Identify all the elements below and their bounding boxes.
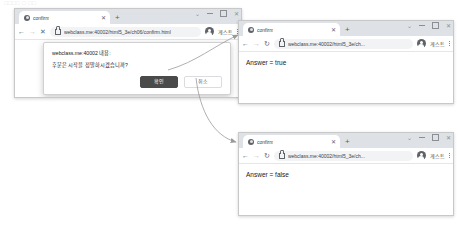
- avatar-icon[interactable]: [205, 27, 214, 36]
- maximize-icon[interactable]: [432, 134, 439, 141]
- tab-strip-true: confirm ✕ + ⌄ ✕: [239, 21, 453, 36]
- tab-confirm-main[interactable]: confirm ✕: [19, 11, 110, 24]
- avatar-icon[interactable]: [417, 151, 426, 160]
- plus-icon[interactable]: +: [115, 14, 120, 22]
- maximize-icon[interactable]: [220, 10, 227, 17]
- confirm-dialog[interactable]: webclass.me:40002 내용: 후문은 시작을 정말하시겠습니까? …: [43, 42, 231, 95]
- dialog-host-line: webclass.me:40002 내용:: [52, 49, 222, 56]
- chevron-down-icon[interactable]: ⌄: [195, 11, 200, 17]
- reload-icon[interactable]: ↻: [264, 152, 270, 159]
- window-controls-true: ⌄ ✕: [407, 22, 451, 29]
- tab-strip-false: confirm ✕ + ⌄ ✕: [239, 133, 453, 148]
- tab-title: confirm: [33, 15, 49, 21]
- profile-label: 게스트: [430, 152, 445, 159]
- tab-title: confirm: [257, 139, 273, 145]
- browser-window-true[interactable]: confirm ✕ + ⌄ ✕ ← → ↻ webclass.me:40002/…: [238, 20, 454, 104]
- plus-icon[interactable]: +: [345, 138, 350, 146]
- plus-icon[interactable]: +: [345, 26, 350, 34]
- window-controls-false: ⌄ ✕: [407, 134, 451, 141]
- window-controls-main: ⌄ ✕: [195, 10, 239, 17]
- close-icon[interactable]: ✕: [446, 23, 451, 29]
- arrow-right-icon[interactable]: →: [253, 40, 260, 47]
- close-icon[interactable]: ✕: [326, 139, 336, 145]
- close-icon[interactable]: ✕: [96, 15, 106, 21]
- toolbar-main: ← → ✕ webclass.me:40002/html5_3e/ch06/co…: [15, 24, 241, 40]
- profile-label: 게스트: [218, 28, 233, 35]
- url-text: webclass.me:40002/html5_3e/ch...: [288, 153, 365, 159]
- lock-icon: [55, 29, 61, 35]
- minimize-icon[interactable]: [419, 137, 425, 138]
- page-body-text: Answer = false: [239, 164, 453, 178]
- url-text: webclass.me:40002/html5_3e/ch06/confirm.…: [64, 29, 171, 35]
- close-icon[interactable]: ✕: [40, 28, 46, 35]
- dialog-buttons: 확인 취소: [52, 76, 222, 88]
- avatar-icon[interactable]: [417, 39, 426, 48]
- globe-icon: [24, 15, 30, 21]
- browser-window-false[interactable]: confirm ✕ + ⌄ ✕ ← → ↻ webclass.me:40002/…: [238, 132, 454, 216]
- kebab-menu-icon[interactable]: [449, 41, 450, 47]
- tab-confirm-true[interactable]: confirm ✕: [243, 23, 340, 36]
- tab-strip-main: confirm ✕ + ⌄ ✕: [15, 9, 241, 24]
- arrow-right-icon[interactable]: →: [253, 152, 260, 159]
- browser-window-main[interactable]: confirm ✕ + ⌄ ✕ ← → ✕ webclass.me:40002/…: [14, 8, 242, 98]
- toolbar-true: ← → ↻ webclass.me:40002/html5_3e/ch... 게…: [239, 36, 453, 52]
- address-bar-false[interactable]: webclass.me:40002/html5_3e/ch...: [274, 151, 413, 161]
- close-icon[interactable]: ✕: [446, 135, 451, 141]
- page-viewport-true: Answer = true: [239, 52, 453, 104]
- url-text: webclass.me:40002/html5_3e/ch...: [288, 41, 365, 47]
- page-viewport-main: webclass.me:40002 내용: 후문은 시작을 정말하시겠습니까? …: [15, 40, 241, 98]
- address-bar-true[interactable]: webclass.me:40002/html5_3e/ch...: [274, 39, 413, 49]
- screenshot-stage: □□□□ □ □□ confirm ✕ + ⌄ ✕ ← → ✕ webclass…: [0, 0, 459, 240]
- ok-button[interactable]: 확인: [140, 76, 178, 88]
- reload-icon[interactable]: ↻: [264, 40, 270, 47]
- toolbar-false: ← → ↻ webclass.me:40002/html5_3e/ch... 게…: [239, 148, 453, 164]
- kebab-menu-icon[interactable]: [449, 153, 450, 159]
- profile-label: 게스트: [430, 40, 445, 47]
- maximize-icon[interactable]: [432, 22, 439, 29]
- cancel-button[interactable]: 취소: [184, 76, 222, 88]
- page-viewport-false: Answer = false: [239, 164, 453, 216]
- minimize-icon[interactable]: [207, 13, 213, 14]
- globe-icon: [248, 139, 254, 145]
- globe-icon: [248, 27, 254, 33]
- lock-icon: [279, 41, 285, 47]
- arrow-left-icon[interactable]: ←: [242, 40, 249, 47]
- close-icon[interactable]: ✕: [326, 27, 336, 33]
- chevron-down-icon[interactable]: ⌄: [407, 23, 412, 29]
- tab-confirm-false[interactable]: confirm ✕: [243, 135, 340, 148]
- top-caption: □□□□ □ □□: [4, 0, 94, 8]
- tab-title: confirm: [257, 27, 273, 33]
- arrow-left-icon[interactable]: ←: [242, 152, 249, 159]
- arrow-right-icon[interactable]: →: [29, 28, 36, 35]
- arrow-left-icon[interactable]: ←: [18, 28, 25, 35]
- lock-icon: [279, 153, 285, 159]
- page-body-text: Answer = true: [239, 52, 453, 66]
- minimize-icon[interactable]: [419, 25, 425, 26]
- chevron-down-icon[interactable]: ⌄: [407, 135, 412, 141]
- address-bar-main[interactable]: webclass.me:40002/html5_3e/ch06/confirm.…: [50, 27, 201, 37]
- dialog-message: 후문은 시작을 정말하시겠습니까?: [52, 61, 222, 68]
- close-icon[interactable]: ✕: [234, 11, 239, 17]
